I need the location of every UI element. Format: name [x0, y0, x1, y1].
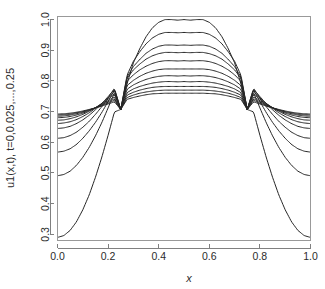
y-axis-title: u1(x,t), t=0,0.025,...,0.25 [4, 68, 16, 188]
plot-canvas: 0.30.40.50.60.70.80.91.0 0.00.20.40.60.8… [0, 0, 325, 289]
y-tick-label: 0.6 [39, 135, 51, 150]
x-tick-label: 0.0 [50, 250, 65, 262]
y-tick-label: 0.3 [39, 227, 51, 242]
y-tick-label: 0.9 [39, 43, 51, 58]
y-tick-label: 0.7 [39, 104, 51, 119]
y-tick-label: 1.0 [39, 12, 51, 27]
chart-figure: 0.30.40.50.60.70.80.91.0 0.00.20.40.60.8… [0, 0, 325, 289]
y-tick-label: 0.4 [39, 196, 51, 211]
x-tick-label: 0.6 [202, 250, 217, 262]
y-tick-label: 0.8 [39, 73, 51, 88]
x-tick-label: 0.4 [151, 250, 166, 262]
y-tick-label: 0.5 [39, 166, 51, 181]
x-tick-label: 0.8 [253, 250, 268, 262]
x-tick-label: 1.0 [303, 250, 318, 262]
x-tick-label: 0.2 [101, 250, 116, 262]
x-axis-title: x [185, 272, 192, 284]
